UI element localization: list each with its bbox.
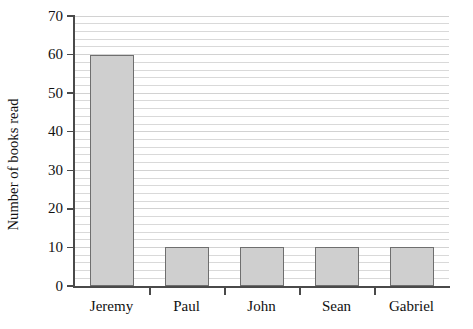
bar [90,55,134,286]
y-axis-tick-label-text: 30 [30,163,63,178]
bar [315,247,359,286]
y-axis-tick-label: 20 [30,202,63,216]
y-axis-tick-label-text: 40 [30,124,63,139]
bar-chart: Number of books read 010203040506070 Jer… [0,0,473,329]
x-axis-category-label: Sean [299,296,374,316]
y-axis-tick-label-text: 50 [30,86,63,101]
gridline-minor [74,46,449,47]
x-axis-category-label: John [224,296,299,316]
y-axis-tick-label: 30 [30,163,63,177]
y-axis-tick-label: 40 [30,125,63,139]
x-axis-tick [149,288,151,295]
plot-area [74,16,449,286]
y-axis-tick [67,208,74,210]
x-axis-category-label: Jeremy [74,296,149,316]
x-axis-category-label: Gabriel [374,296,449,316]
y-axis-tick-label-text: 60 [30,47,63,62]
y-axis-tick [67,247,74,249]
bar [240,247,284,286]
y-axis-tick-label: 10 [30,240,63,254]
y-axis-tick [67,15,74,17]
y-axis-tick-label-text: 0 [30,279,63,294]
y-axis-tick-label-text: 20 [30,201,63,216]
y-axis-tick [67,92,74,94]
y-axis-tick [67,285,74,287]
y-axis-tick-label: 60 [30,48,63,62]
y-axis-tick-label: 50 [30,86,63,100]
y-axis-title: Number of books read [0,0,26,329]
y-axis-tick-label: 70 [30,9,63,23]
y-axis-tick-label-text: 70 [30,9,63,24]
y-axis-tick [67,54,74,56]
gridline-minor [74,23,449,24]
y-axis-tick-label: 0 [30,279,63,293]
gridline-major [74,16,449,17]
x-axis-tick [299,288,301,295]
x-axis-tick [374,288,376,295]
y-axis-tick [67,170,74,172]
bar [165,247,209,286]
bar [390,247,434,286]
x-axis-category-label: Paul [149,296,224,316]
y-axis-tick [67,131,74,133]
gridline-minor [74,31,449,32]
y-axis-tick-label-text: 10 [30,240,63,255]
x-axis-line [73,286,450,288]
x-axis-tick [224,288,226,295]
gridline-minor [74,39,449,40]
